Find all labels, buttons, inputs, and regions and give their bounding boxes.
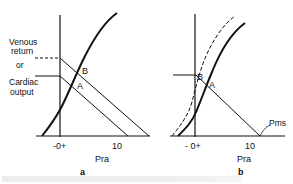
panel-a-tick-zero: -0+ — [53, 141, 66, 151]
panel-a-point-a: A — [77, 81, 83, 91]
panel-a-y-label: Venous return or Cardiac output — [9, 37, 41, 97]
panel-b: Pms B A - 0+ 10 Pra b — [170, 14, 286, 177]
panel-a-tick-ten: 10 — [112, 141, 122, 151]
panel-a-venous-return-line-a — [60, 76, 128, 136]
panel-b-x-label: Pra — [237, 154, 251, 164]
panel-a: Venous return or Cardiac output B A -0+ … — [9, 13, 150, 177]
panel-a-point-b: B — [82, 66, 88, 76]
panel-b-venous-return-line — [196, 75, 260, 136]
panel-b-shifted-cardiac-curve — [172, 16, 235, 136]
panel-b-point-b: B — [197, 72, 203, 82]
panel-b-tick-ten: 10 — [245, 141, 255, 151]
panel-b-pms-label: Pms — [269, 118, 286, 128]
panel-b-tick-zero: - 0+ — [185, 141, 201, 151]
figure-canvas: Venous return or Cardiac output B A -0+ … — [0, 0, 293, 184]
panel-a-venous-return-line-b — [60, 58, 149, 136]
figure-caption-cutoff — [2, 176, 242, 182]
panel-a-x-label: Pra — [95, 154, 109, 164]
panel-b-point-a: A — [209, 80, 215, 90]
